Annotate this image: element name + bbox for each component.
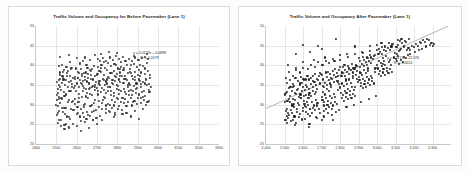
data-point	[72, 109, 74, 111]
data-point	[348, 73, 350, 75]
data-point	[308, 88, 310, 90]
data-point	[332, 104, 334, 106]
data-point	[367, 70, 369, 72]
data-point	[323, 101, 325, 103]
data-point	[343, 85, 345, 87]
data-point	[342, 66, 344, 68]
data-point	[310, 95, 312, 97]
data-point	[313, 59, 315, 61]
data-point	[108, 51, 110, 53]
data-point	[78, 97, 80, 99]
data-point	[317, 79, 319, 81]
data-point	[101, 108, 103, 110]
x-axis-tick-label: 3,100	[391, 146, 400, 150]
data-point	[371, 77, 373, 79]
data-point	[312, 75, 314, 77]
data-point	[111, 72, 113, 74]
data-point	[105, 92, 107, 94]
data-point	[403, 45, 405, 47]
data-point	[70, 80, 72, 82]
data-point	[354, 45, 356, 47]
rsquared-text-before: R² = 0.2479	[133, 56, 166, 61]
data-point	[69, 118, 71, 120]
data-point	[67, 86, 69, 88]
data-point	[72, 100, 74, 102]
data-point	[329, 73, 331, 75]
data-point	[347, 98, 349, 100]
data-point	[100, 53, 102, 55]
data-point	[293, 106, 295, 108]
x-axis-tick-label: 2,400	[262, 146, 271, 150]
data-point	[113, 92, 115, 94]
data-point	[305, 78, 307, 80]
data-point	[111, 107, 113, 109]
data-point	[316, 117, 318, 119]
data-point	[288, 98, 290, 100]
data-point	[314, 73, 316, 75]
data-point	[58, 65, 60, 67]
data-point	[302, 67, 304, 69]
data-point	[288, 114, 290, 116]
data-point	[286, 82, 288, 84]
data-point	[348, 78, 350, 80]
data-point	[421, 48, 423, 50]
chart-before-pacemaker: Traffic Volume and Occupancy for Before …	[8, 6, 230, 166]
data-point	[82, 112, 84, 114]
data-point	[86, 67, 88, 69]
data-point	[362, 52, 364, 54]
data-point	[125, 111, 127, 113]
y-axis-tick-label: 25	[30, 122, 34, 126]
data-point	[94, 54, 96, 56]
data-point	[91, 94, 93, 96]
data-point	[109, 56, 111, 58]
data-point	[66, 75, 68, 77]
data-point	[98, 106, 100, 108]
data-point	[118, 58, 120, 60]
data-point	[113, 70, 115, 72]
data-point	[306, 100, 308, 102]
data-point	[418, 49, 420, 51]
plot-inner-before	[36, 26, 219, 144]
data-point	[365, 86, 367, 88]
data-point	[103, 61, 105, 63]
data-point	[334, 68, 336, 70]
data-point	[78, 116, 80, 118]
data-point	[91, 111, 93, 113]
data-point	[346, 52, 348, 54]
data-point	[374, 54, 376, 56]
data-point	[323, 104, 325, 106]
data-point	[349, 90, 351, 92]
data-point	[383, 60, 385, 62]
data-point	[67, 54, 69, 56]
x-axis-tick-label: 2700	[93, 146, 101, 150]
data-point	[109, 111, 111, 113]
gridline-horizontal	[36, 105, 219, 106]
data-point	[118, 105, 120, 107]
x-axis-tick-label: 2800	[113, 146, 121, 150]
data-point	[104, 97, 106, 99]
data-point	[104, 112, 106, 114]
data-point	[284, 93, 286, 95]
data-point	[424, 41, 426, 43]
data-point	[124, 98, 126, 100]
data-point	[408, 38, 410, 40]
data-point	[117, 85, 119, 87]
data-point	[130, 115, 132, 117]
data-point	[409, 52, 411, 54]
data-point	[149, 77, 151, 79]
scatter-plot-pair: Traffic Volume and Occupancy for Before …	[0, 0, 469, 173]
data-point	[304, 118, 306, 120]
data-point	[354, 95, 356, 97]
data-point	[292, 75, 294, 77]
data-point	[121, 113, 123, 115]
data-point	[65, 66, 67, 68]
data-point	[144, 95, 146, 97]
data-point	[80, 120, 82, 122]
data-point	[122, 82, 124, 84]
data-point	[295, 111, 297, 113]
data-point	[368, 78, 370, 80]
data-point	[314, 66, 316, 68]
data-point	[292, 86, 294, 88]
data-point	[110, 65, 112, 67]
data-point	[296, 108, 298, 110]
